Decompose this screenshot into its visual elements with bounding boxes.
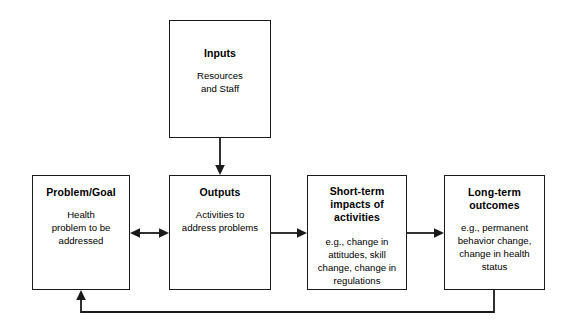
edge-feedback-loop [76, 290, 494, 312]
diagram-canvas: Inputs Resources and Staff Problem/Goal … [0, 0, 571, 335]
edge-inputs-to-outputs [215, 138, 225, 175]
edge-short-term-to-long-term [407, 228, 444, 238]
connector-layer [0, 0, 571, 335]
edge-problem-goal-outputs [130, 228, 169, 238]
edge-outputs-to-short-term [271, 228, 307, 238]
